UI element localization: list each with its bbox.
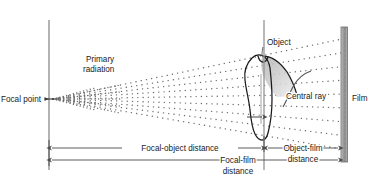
object-film-distance-label-line2: distance <box>288 155 319 164</box>
focal-film-distance-label-line2: distance <box>223 167 254 176</box>
object-label: Object <box>267 38 291 47</box>
diagram-canvas: Focal point Primary radiation Object Cen… <box>0 0 379 185</box>
film-label: Film <box>352 94 368 103</box>
object-film-distance-label-line1: Object-film <box>283 144 322 153</box>
primary-radiation-label-line1: Primary <box>86 55 115 64</box>
primary-radiation-label-line2: radiation <box>83 65 115 74</box>
focal-object-distance-label: Focal-object distance <box>141 144 219 153</box>
radiography-geometry-diagram: Focal point Primary radiation Object Cen… <box>0 0 379 185</box>
object-label-leader <box>262 47 263 56</box>
central-ray-label: Central ray <box>286 92 327 101</box>
focal-film-distance-label-line1: Focal-film <box>220 156 256 165</box>
film-plate <box>341 27 348 162</box>
focal-point-label: Focal point <box>1 95 42 104</box>
